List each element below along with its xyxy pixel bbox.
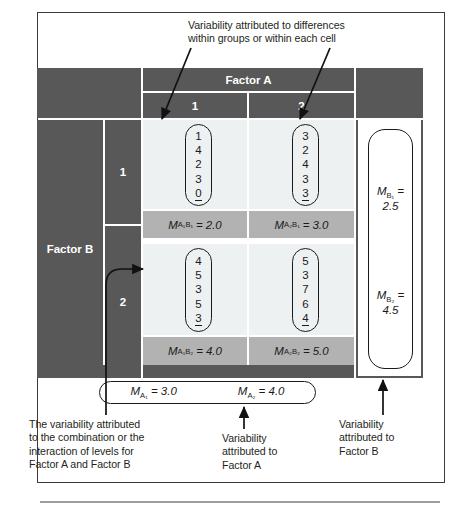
score: 3	[302, 186, 308, 201]
cell-a2b2-mean-strip: MA₂B₂ = 5.0	[249, 337, 354, 365]
column-mean-a2-subscript: A₂	[247, 391, 255, 400]
cell-a1b2-scores: 4 5 3 5 3	[185, 248, 212, 332]
row-mean-b1: MB₁ = 2.5	[368, 185, 413, 212]
score: 4	[195, 143, 201, 157]
column-means-capsule: MA₁ = 3.0 MA₂ = 4.0	[99, 381, 316, 404]
score: 5	[195, 268, 201, 282]
row-mean-b2-value: 4.5	[383, 304, 399, 316]
annotation-interaction: The variability attributed to the combin…	[29, 418, 144, 472]
column-level-2-header: 2	[249, 93, 354, 118]
score: 2	[195, 157, 201, 171]
cell-a2b1-mean-strip: MA₂B₁ = 3.0	[249, 211, 354, 238]
anova-matrix-table: Factor A 1 2 Factor B 1 2 MA₁B₁ = 2.0	[37, 68, 423, 378]
table-top-right-blank	[356, 68, 423, 118]
score: 3	[302, 129, 308, 143]
figure-root: Variability attributed to differences wi…	[0, 0, 460, 514]
table-corner-blank	[37, 68, 141, 118]
cell-a2b2-scores: 5 3 7 6 4	[292, 248, 319, 332]
cell-a2b2-mean-subscript: A₂B₂	[284, 347, 300, 356]
column-mean-a1-subscript: A₁	[140, 391, 148, 400]
score: 6	[302, 297, 308, 311]
score: 5	[195, 297, 201, 311]
score: 3	[302, 172, 308, 186]
column-mean-a2-value: 4.0	[269, 385, 285, 397]
score: 3	[302, 268, 308, 282]
score: 7	[302, 282, 308, 296]
row-mean-b2: MB₂ = 4.5	[368, 289, 413, 316]
score: 4	[302, 157, 308, 171]
column-level-1-header: 1	[143, 93, 247, 118]
score: 3	[195, 172, 201, 186]
annotation-factor-b: Variability attributed to Factor B	[339, 418, 394, 458]
cell-a1b1-mean-subscript: A₁B₁	[178, 220, 193, 229]
row-level-1-label: 1	[105, 120, 141, 224]
cell-a2b1-mean-value: 3.0	[309, 219, 328, 231]
row-mean-b1-subscript: B₁	[387, 191, 395, 200]
table-bottom-left-blank	[37, 365, 141, 378]
annotation-factor-a: Variability attributed to Factor A	[222, 432, 277, 472]
column-mean-a2: MA₂ = 4.0	[238, 385, 285, 400]
row-mean-b1-value: 2.5	[383, 200, 399, 212]
score: 3	[195, 282, 201, 296]
score: 2	[302, 143, 308, 157]
column-mean-a1: MA₁ = 3.0	[130, 385, 176, 400]
row-mean-b2-subscript: B₂	[386, 295, 394, 304]
cell-a2b2-mean-value: 5.0	[310, 345, 329, 357]
score: 4	[302, 311, 308, 326]
cell-a2b2-mean: MA₂B₂ = 5.0	[249, 337, 354, 365]
row-level-2-label: 2	[105, 226, 141, 378]
row-level-2-header: 2	[105, 226, 141, 378]
cell-a1b1-mean-value: 2.0	[203, 219, 222, 231]
cell-a2b1-scores: 3 2 4 3 3	[292, 124, 319, 206]
annotation-within-cell: Variability attributed to differences wi…	[188, 19, 345, 46]
score: 5	[302, 254, 308, 268]
cell-a1b2-mean-value: 4.0	[203, 345, 222, 357]
table-bottom-strip	[143, 365, 354, 378]
cell-a2b1-mean: MA₂B₁ = 3.0	[249, 211, 354, 238]
row-level-1-header: 1	[105, 120, 141, 224]
cell-a2b1-mean-subscript: A₂B₁	[284, 220, 300, 229]
column-level-1-label: 1	[143, 93, 247, 118]
bottom-divider-rule	[40, 501, 440, 503]
column-level-2-label: 2	[249, 93, 354, 118]
row-means-capsule	[368, 129, 413, 369]
row-factor-label: Factor B	[37, 120, 103, 378]
cell-a1b1-mean-strip: MA₁B₁ = 2.0	[143, 211, 247, 238]
column-factor-label: Factor A	[143, 68, 354, 91]
column-factor-header: Factor A	[143, 68, 354, 91]
cell-a1b1-scores: 1 4 2 3 0	[185, 124, 212, 206]
score: 0	[195, 186, 201, 201]
row-factor-header: Factor B	[37, 120, 103, 378]
cell-a1b2-mean-subscript: A₁B₂	[178, 347, 194, 356]
cell-a1b2-mean: MA₁B₂ = 4.0	[143, 337, 247, 365]
score: 3	[195, 311, 201, 326]
cell-a1b2-mean-strip: MA₁B₂ = 4.0	[143, 337, 247, 365]
cell-a1b1-mean: MA₁B₁ = 2.0	[143, 211, 247, 238]
score: 1	[195, 129, 201, 143]
score: 4	[195, 254, 201, 268]
column-mean-a1-value: 3.0	[161, 385, 177, 397]
